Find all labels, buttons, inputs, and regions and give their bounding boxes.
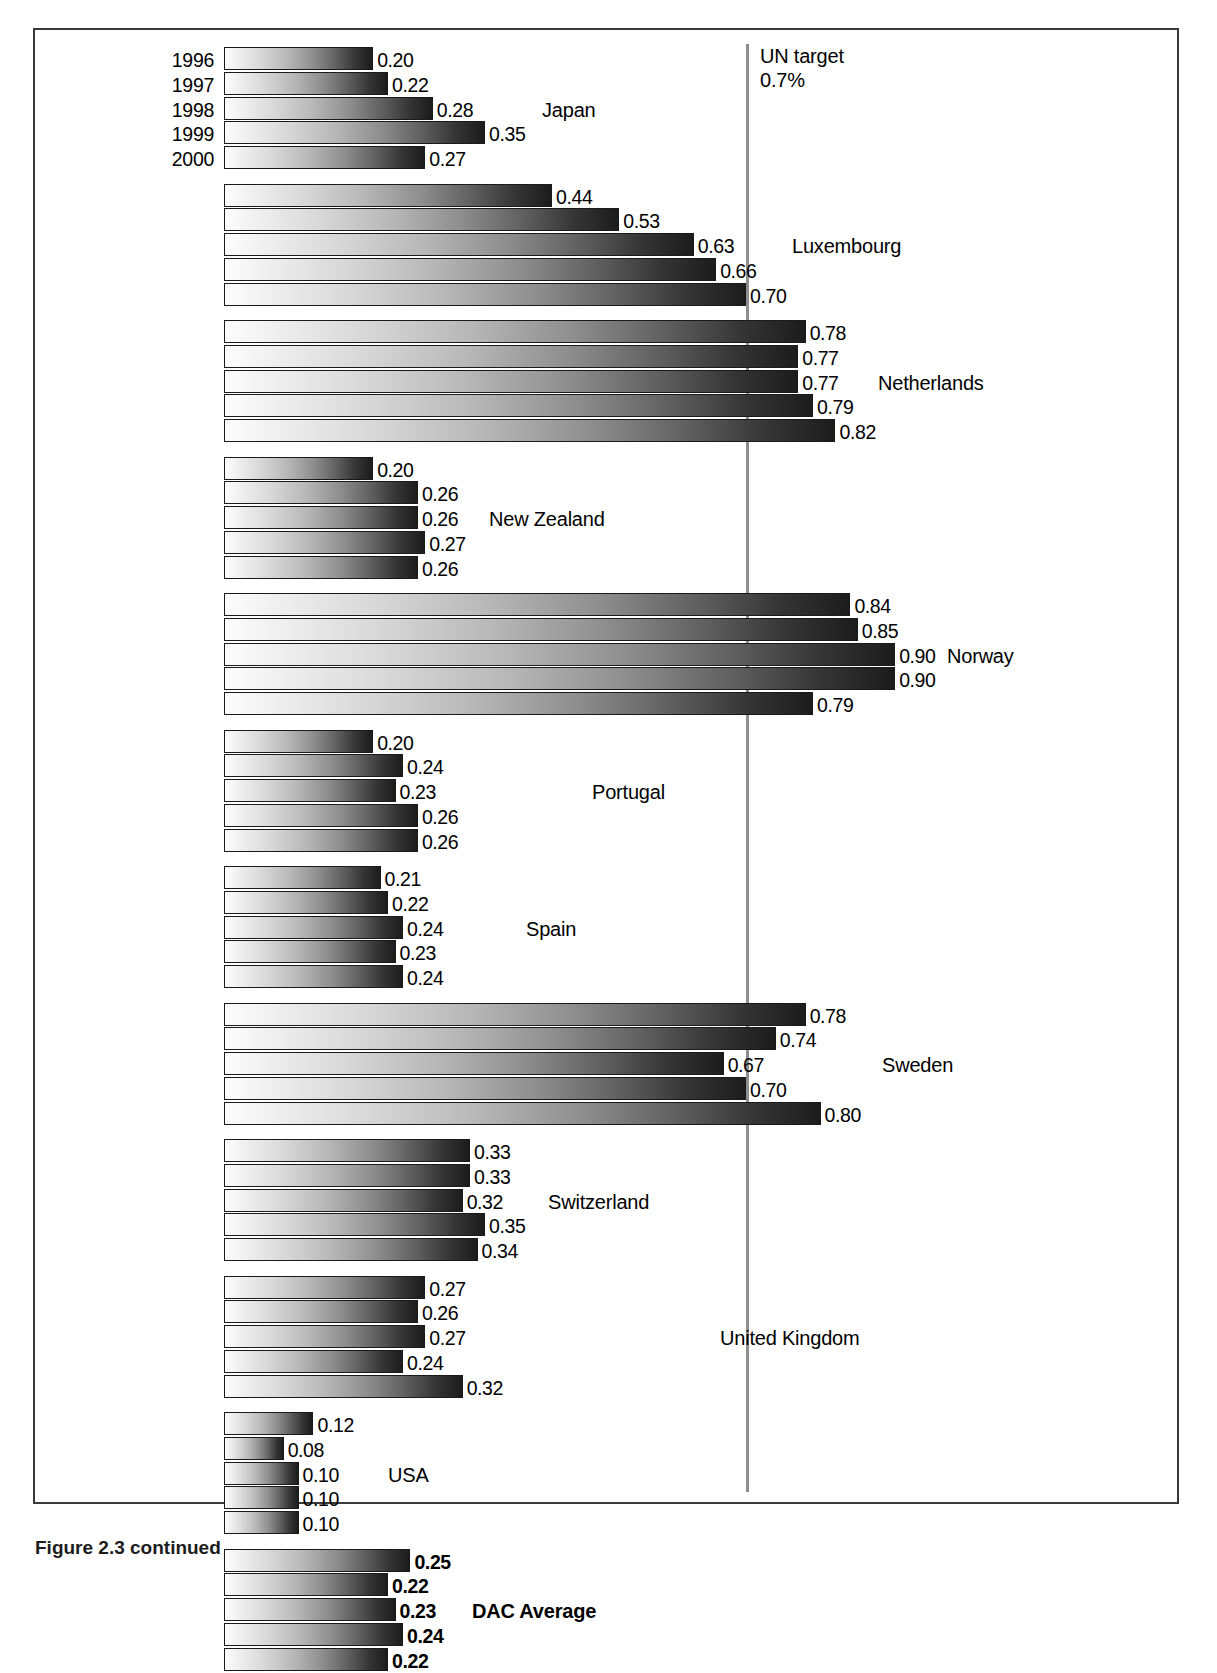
series-label-dac-average: DAC Average xyxy=(472,1600,596,1623)
bar-united-kingdom-1998 xyxy=(224,1325,425,1348)
bar-norway-1996 xyxy=(224,593,850,616)
bar-new-zealand-1999 xyxy=(224,531,425,554)
bar-japan-2000 xyxy=(224,146,425,169)
series-label-japan: Japan xyxy=(542,99,596,122)
series-label-portugal: Portugal xyxy=(592,781,665,804)
bar-value-label: 0.90 xyxy=(899,645,935,668)
bar-new-zealand-2000 xyxy=(224,556,418,579)
bar-japan-1997 xyxy=(224,72,388,95)
bar-japan-1999 xyxy=(224,121,485,144)
bar-value-label: 0.20 xyxy=(377,459,413,482)
bar-value-label: 0.26 xyxy=(422,806,458,829)
bar-united-kingdom-1997 xyxy=(224,1300,418,1323)
year-axis-label-1996: 1996 xyxy=(152,49,214,72)
bar-value-label: 0.70 xyxy=(750,1079,786,1102)
bar-value-label: 0.20 xyxy=(377,49,413,72)
bar-japan-1998 xyxy=(224,97,433,120)
series-label-sweden: Sweden xyxy=(882,1054,953,1077)
bar-spain-1996 xyxy=(224,866,381,889)
bar-switzerland-1998 xyxy=(224,1189,463,1212)
bar-portugal-1997 xyxy=(224,754,403,777)
bar-value-label: 0.33 xyxy=(474,1166,510,1189)
bar-new-zealand-1997 xyxy=(224,481,418,504)
bar-usa-1999 xyxy=(224,1486,299,1509)
bar-value-label: 0.26 xyxy=(422,508,458,531)
bar-sweden-2000 xyxy=(224,1102,821,1125)
chart-plot-area: UN target 0.7%0.2019960.2219970.2819980.… xyxy=(35,30,1177,1502)
bar-value-label: 0.24 xyxy=(407,756,443,779)
bar-value-label: 0.80 xyxy=(825,1104,861,1127)
bar-value-label: 0.67 xyxy=(728,1054,764,1077)
series-label-spain: Spain xyxy=(526,918,576,941)
bar-value-label: 0.66 xyxy=(720,260,756,283)
bar-value-label: 0.32 xyxy=(467,1377,503,1400)
bar-dac-average-2000 xyxy=(224,1648,388,1671)
bar-dac-average-1999 xyxy=(224,1623,403,1646)
bar-norway-1998 xyxy=(224,643,895,666)
bar-sweden-1996 xyxy=(224,1003,806,1026)
bar-portugal-1996 xyxy=(224,730,373,753)
bar-norway-1999 xyxy=(224,667,895,690)
bar-value-label: 0.10 xyxy=(303,1513,339,1536)
bar-united-kingdom-1999 xyxy=(224,1350,403,1373)
bar-value-label: 0.53 xyxy=(623,210,659,233)
bar-value-label: 0.25 xyxy=(414,1551,450,1574)
bar-netherlands-1997 xyxy=(224,345,798,368)
bar-value-label: 0.08 xyxy=(288,1439,324,1462)
bar-spain-1998 xyxy=(224,916,403,939)
series-label-norway: Norway xyxy=(947,645,1014,668)
bar-value-label: 0.90 xyxy=(899,669,935,692)
bar-dac-average-1996 xyxy=(224,1549,410,1572)
bar-spain-1999 xyxy=(224,940,396,963)
bar-usa-1996 xyxy=(224,1412,313,1435)
bar-spain-1997 xyxy=(224,891,388,914)
bar-value-label: 0.78 xyxy=(810,322,846,345)
bar-value-label: 0.23 xyxy=(400,942,436,965)
bar-value-label: 0.27 xyxy=(429,1327,465,1350)
bar-value-label: 0.35 xyxy=(489,1215,525,1238)
year-axis-label-2000: 2000 xyxy=(152,148,214,171)
bar-switzerland-1999 xyxy=(224,1213,485,1236)
bar-united-kingdom-2000 xyxy=(224,1375,463,1398)
bar-spain-2000 xyxy=(224,965,403,988)
un-target-label: UN target 0.7% xyxy=(760,45,844,92)
bar-value-label: 0.78 xyxy=(810,1005,846,1028)
bar-value-label: 0.27 xyxy=(429,1278,465,1301)
bar-usa-1998 xyxy=(224,1462,299,1485)
bar-portugal-2000 xyxy=(224,829,418,852)
bar-sweden-1998 xyxy=(224,1052,724,1075)
figure-caption: Figure 2.3 continued xyxy=(35,1537,221,1559)
bar-value-label: 0.24 xyxy=(407,918,443,941)
bar-value-label: 0.23 xyxy=(400,781,436,804)
series-label-netherlands: Netherlands xyxy=(878,372,984,395)
bar-new-zealand-1998 xyxy=(224,506,418,529)
year-axis-label-1997: 1997 xyxy=(152,74,214,97)
bar-value-label: 0.24 xyxy=(407,1352,443,1375)
bar-luxembourg-2000 xyxy=(224,283,746,306)
bar-value-label: 0.22 xyxy=(392,74,428,97)
bar-value-label: 0.10 xyxy=(303,1488,339,1511)
bar-value-label: 0.22 xyxy=(392,1650,428,1673)
bar-value-label: 0.85 xyxy=(862,620,898,643)
bar-value-label: 0.74 xyxy=(780,1029,816,1052)
bar-value-label: 0.26 xyxy=(422,1302,458,1325)
bar-value-label: 0.24 xyxy=(407,967,443,990)
bar-value-label: 0.10 xyxy=(303,1464,339,1487)
bar-netherlands-1998 xyxy=(224,370,798,393)
bar-luxembourg-1997 xyxy=(224,208,619,231)
series-label-switzerland: Switzerland xyxy=(548,1191,649,1214)
bar-value-label: 0.77 xyxy=(802,347,838,370)
bar-value-label: 0.24 xyxy=(407,1625,443,1648)
bar-netherlands-2000 xyxy=(224,419,835,442)
bar-value-label: 0.63 xyxy=(698,235,734,258)
bar-luxembourg-1996 xyxy=(224,184,552,207)
bar-value-label: 0.27 xyxy=(429,148,465,171)
bar-value-label: 0.79 xyxy=(817,694,853,717)
bar-united-kingdom-1996 xyxy=(224,1276,425,1299)
bar-switzerland-1997 xyxy=(224,1164,470,1187)
year-axis-label-1999: 1999 xyxy=(152,123,214,146)
bar-japan-1996 xyxy=(224,47,373,70)
bar-portugal-1998 xyxy=(224,779,396,802)
series-label-luxembourg: Luxembourg xyxy=(792,235,901,258)
